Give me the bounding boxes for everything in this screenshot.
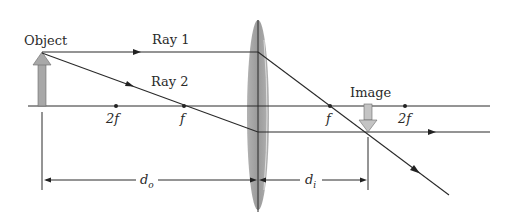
two-f-right-dot [403, 104, 407, 108]
two-f-left-label: 2f [105, 111, 121, 126]
object-label: Object [24, 33, 68, 48]
ray-2-label: Ray 2 [151, 74, 189, 89]
image-label: Image [350, 85, 392, 100]
ray-diagram: Object Ray 1 Ray 2 Image 2f f f 2f do di [0, 0, 515, 218]
f-left-label: f [179, 111, 187, 126]
dimension-lines [42, 112, 368, 190]
two-f-left-dot [114, 104, 118, 108]
two-f-right-label: 2f [397, 111, 413, 126]
converging-lens [247, 20, 269, 212]
d-o-label: do [140, 172, 154, 190]
ray-1 [42, 49, 449, 195]
f-right-label: f [325, 111, 333, 126]
object-arrow [33, 52, 51, 106]
ray-1-label: Ray 1 [152, 32, 190, 47]
d-i-label: di [305, 172, 316, 190]
image-arrow [359, 104, 377, 132]
